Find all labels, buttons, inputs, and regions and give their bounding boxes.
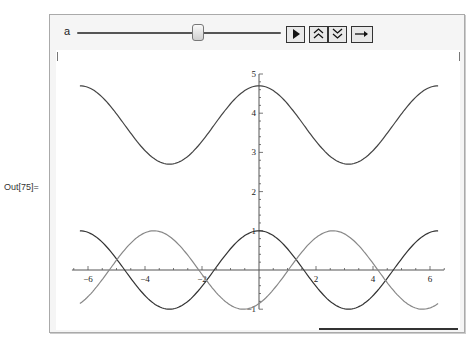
y-tick-label: 2 xyxy=(252,187,257,197)
y-tick-label: 4 xyxy=(252,108,257,118)
resize-underline xyxy=(319,328,458,330)
x-tick-label: 6 xyxy=(428,274,433,284)
y-tick-label: 3 xyxy=(252,147,257,157)
x-tick-label: −6 xyxy=(83,274,93,284)
y-tick-label: 5 xyxy=(252,69,257,79)
x-tick-label: 2 xyxy=(314,274,319,284)
x-tick-label: −4 xyxy=(140,274,150,284)
plot: −6−4−2246−112345 xyxy=(0,0,476,346)
x-tick-label: 4 xyxy=(371,274,376,284)
